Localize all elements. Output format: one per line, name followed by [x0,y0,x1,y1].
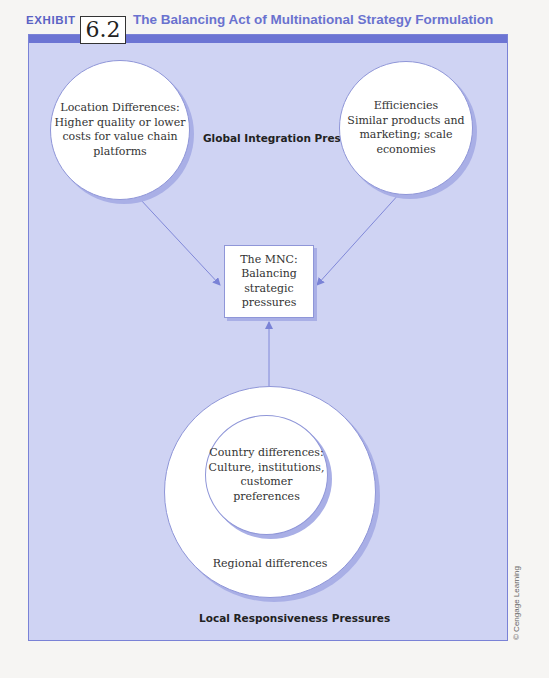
efficiencies-line-3: marketing; scale [347,128,464,143]
location-line-1: Location Differences: [54,101,185,116]
regional-label: Regional differences [213,557,328,572]
mnc-node: The MNC: Balancing strategic pressures [224,245,314,318]
exhibit-number: 6.2 [80,16,126,44]
location-differences-node: Location Differences: Higher quality or … [50,60,190,200]
country-line-3: customer preferences [206,475,327,504]
mnc-line-2: Balancing strategic [225,267,313,296]
local-responsiveness-label: Local Responsiveness Pressures [199,612,390,624]
country-differences-node: Country differences: Culture, institutio… [205,415,328,535]
arrow-location-to-mnc [140,199,220,285]
efficiencies-node: Efficiencies Similar products and market… [339,61,473,195]
efficiencies-line-2: Similar products and [347,114,464,129]
location-line-4: platforms [54,145,185,160]
location-line-2: Higher quality or lower [54,116,185,131]
efficiencies-line-4: economies [347,143,464,158]
mnc-line-1: The MNC: [225,253,313,268]
efficiencies-line-1: Efficiencies [347,99,464,114]
arrow-efficiencies-to-mnc [317,193,400,285]
country-line-1: Country differences: [206,446,327,461]
location-line-3: costs for value chain [54,130,185,145]
country-line-2: Culture, institutions, [206,461,327,476]
mnc-line-3: pressures [225,296,313,311]
